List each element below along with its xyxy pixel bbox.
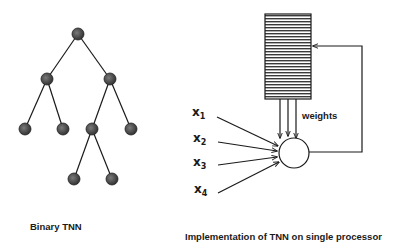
input-label-x4: x4 xyxy=(194,182,207,198)
tree-node xyxy=(41,73,53,85)
tree-node xyxy=(106,173,118,185)
binary-tree xyxy=(19,28,137,185)
tree-node xyxy=(125,123,137,135)
weights-memory-block xyxy=(265,14,311,99)
tree-node xyxy=(104,73,116,85)
tree-edge xyxy=(78,34,110,79)
input-label-x3: x3 xyxy=(193,155,206,171)
tree-edge xyxy=(74,129,92,179)
tree-edge xyxy=(47,79,63,129)
tree-node xyxy=(72,28,84,40)
tree-edge xyxy=(110,79,131,129)
tree-edge xyxy=(92,79,110,129)
weights-label: weights xyxy=(302,110,337,121)
input-label-x2: x2 xyxy=(193,131,206,147)
input-arrows xyxy=(217,117,279,193)
binary-tnn-caption: Binary TNN xyxy=(30,221,82,232)
implementation-caption: Implementation of TNN on single processo… xyxy=(185,231,382,242)
tree-node xyxy=(86,123,98,135)
input-label-x1: x1 xyxy=(192,105,205,121)
diagram-canvas xyxy=(0,0,411,251)
tree-node xyxy=(19,123,31,135)
weight-arrows xyxy=(280,99,296,138)
tree-node xyxy=(57,123,69,135)
processor-node xyxy=(279,138,309,168)
feedback-loop xyxy=(309,46,362,152)
tree-edge xyxy=(47,34,78,79)
tree-edge xyxy=(25,79,47,129)
tree-edge xyxy=(92,129,112,179)
tree-node xyxy=(68,173,80,185)
